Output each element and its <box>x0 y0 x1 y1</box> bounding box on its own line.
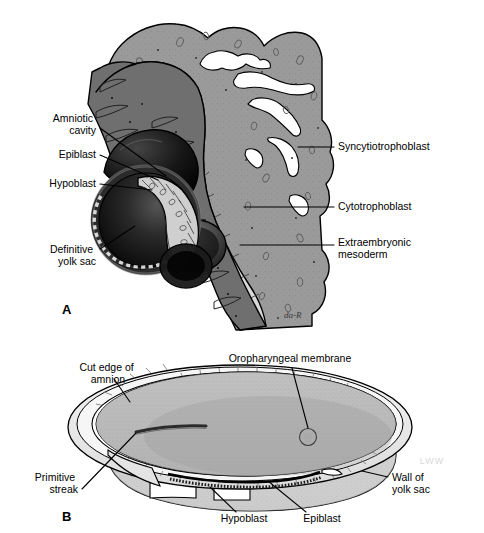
label-cytotrophoblast-text: Cytotrophoblast <box>338 200 412 212</box>
label-amniotic-cavity-text: Amniotic cavity <box>53 112 97 136</box>
label-oropharyngeal-membrane-text: Oropharyngeal membrane <box>229 352 352 364</box>
embryology-figure: Amniotic cavity Epiblast Hypoblast <box>0 0 484 533</box>
label-wall-of-yolk-sac-text: Wall of yolk sac <box>392 471 430 495</box>
label-epiblast-text: Epiblast <box>59 148 96 160</box>
panel-b: Cut edge of amnion Oropharyngeal membran… <box>35 352 444 524</box>
label-epiblast-b-text: Epiblast <box>303 512 340 524</box>
panel-label-b: B <box>62 509 71 524</box>
figure-canvas: Amniotic cavity Epiblast Hypoblast <box>0 0 484 533</box>
label-hypoblast-b-text: Hypoblast <box>221 512 268 524</box>
label-extraembryonic-mesoderm-text: Extraembryonic mesoderm <box>338 236 414 260</box>
connecting-stalk <box>160 244 212 288</box>
label-hypoblast-text: Hypoblast <box>49 177 96 189</box>
embryonic-disc-region <box>96 372 396 476</box>
artist-signature: da-R <box>284 310 302 320</box>
publisher-watermark: LWW <box>420 456 444 466</box>
label-definitive-yolk-sac-text: Definitive yolk sac <box>50 243 96 267</box>
panel-label-a: A <box>62 302 72 317</box>
label-primitive-streak-text: Primitive streak <box>35 471 79 495</box>
label-syncytiotrophoblast-text: Syncytiotrophoblast <box>338 140 430 152</box>
panel-a: Amniotic cavity Epiblast Hypoblast <box>49 24 429 330</box>
